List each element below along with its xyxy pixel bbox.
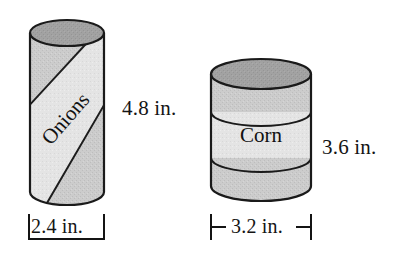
onions-can-top <box>30 20 104 46</box>
corn-can: Corn <box>205 59 317 206</box>
corn-height-label: 3.6 in. <box>322 137 377 158</box>
corn-can-top <box>211 59 311 89</box>
corn-lower-band <box>205 158 317 206</box>
onions-width-label: 2.4 in. <box>31 216 83 236</box>
onions-height-label: 4.8 in. <box>122 98 177 119</box>
corn-product-label: Corn <box>240 123 283 147</box>
diagram-canvas: Onions <box>0 0 399 261</box>
corn-width-label: 3.2 in. <box>231 216 283 236</box>
